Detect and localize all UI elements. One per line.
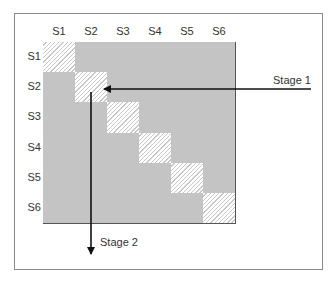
stage2-label: Stage 2 [100,236,138,248]
stage1-label: Stage 1 [273,74,311,86]
stage-arrows [0,0,334,283]
